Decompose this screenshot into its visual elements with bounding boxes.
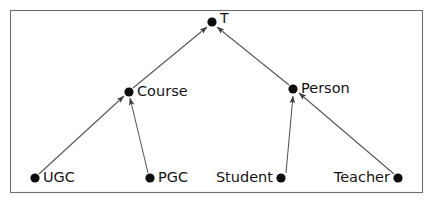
edges-group <box>39 27 394 174</box>
node-student[interactable]: Student <box>216 169 286 185</box>
edge-pgc-to-course <box>130 98 148 173</box>
type-hierarchy-diagram: TCoursePersonUGCPGCStudentTeacher <box>0 0 433 203</box>
node-label-teacher: Teacher <box>333 169 390 185</box>
edge-teacher-to-person <box>299 93 394 174</box>
node-pgc[interactable]: PGC <box>145 169 188 185</box>
node-label-person: Person <box>301 80 350 96</box>
nodes-group: TCoursePersonUGCPGCStudentTeacher <box>30 10 402 185</box>
person-node-dot-icon <box>288 84 297 93</box>
diagram-frame <box>11 11 423 193</box>
node-label-ugc: UGC <box>43 169 75 185</box>
node-top[interactable]: T <box>207 10 229 27</box>
teacher-node-dot-icon <box>393 173 402 182</box>
diagram-canvas: TCoursePersonUGCPGCStudentTeacher <box>0 0 433 203</box>
edge-course-to-top <box>133 27 207 88</box>
node-label-pgc: PGC <box>158 169 188 185</box>
edge-person-to-top <box>217 27 289 85</box>
ugc-node-dot-icon <box>30 173 39 182</box>
node-label-student: Student <box>216 169 273 185</box>
edge-ugc-to-course <box>39 96 124 174</box>
course-node-dot-icon <box>124 87 133 96</box>
node-label-top: T <box>219 10 229 26</box>
node-course[interactable]: Course <box>124 83 187 99</box>
edge-student-to-person <box>286 96 293 173</box>
node-person[interactable]: Person <box>288 80 349 96</box>
pgc-node-dot-icon <box>145 173 154 182</box>
student-node-dot-icon <box>276 173 285 182</box>
node-teacher[interactable]: Teacher <box>333 169 403 185</box>
top-type-symbol-dot-icon <box>207 17 216 26</box>
node-ugc[interactable]: UGC <box>30 169 75 185</box>
node-label-course: Course <box>137 83 188 99</box>
